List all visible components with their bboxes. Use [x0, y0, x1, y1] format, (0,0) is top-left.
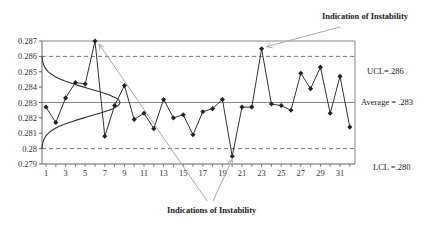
- ucl-label: UCL=.286: [367, 66, 404, 76]
- y-tick-label: 0.28: [22, 144, 37, 154]
- y-tick-label: 0.281: [18, 128, 37, 138]
- x-tick-label: 15: [179, 168, 188, 178]
- x-tick-label: 5: [83, 168, 87, 178]
- x-tick-label: 1: [44, 168, 48, 178]
- data-point-marker: [249, 105, 254, 110]
- data-point-marker: [259, 46, 264, 51]
- top-annotation: Indication of Instability: [322, 11, 409, 21]
- data-point-marker: [43, 105, 48, 110]
- x-tick-label: 27: [297, 168, 306, 178]
- data-point-marker: [53, 120, 58, 125]
- data-point-marker: [63, 95, 68, 100]
- y-tick-label: 0.282: [18, 113, 37, 123]
- reference-lines: [42, 56, 355, 148]
- data-point-marker: [328, 111, 333, 116]
- x-tick-label: 9: [122, 168, 126, 178]
- x-tick-label: 17: [199, 168, 208, 178]
- data-point-marker: [102, 134, 107, 139]
- x-tick-label: 21: [238, 168, 247, 178]
- y-tick-label: 0.285: [18, 67, 37, 77]
- data-point-marker: [181, 112, 186, 117]
- y-tick-label: 0.283: [18, 98, 37, 108]
- data-point-marker: [337, 74, 342, 79]
- y-tick-label: 0.279: [18, 159, 37, 169]
- x-tick-label: 13: [159, 168, 168, 178]
- control-chart: 0.2790.280.2810.2820.2830.2840.2850.2860…: [0, 0, 427, 226]
- lcl-label: LCL =.280: [373, 162, 411, 172]
- data-point-marker: [230, 154, 235, 159]
- data-point-marker: [279, 103, 284, 108]
- y-tick-label: 0.284: [18, 82, 38, 92]
- x-axis: 135791113151719212325272931: [42, 164, 355, 178]
- data-point-marker: [161, 97, 166, 102]
- x-tick-label: 7: [103, 168, 107, 178]
- average-label: Average = .283: [361, 97, 413, 107]
- data-point-marker: [190, 132, 195, 137]
- data-point-marker: [308, 86, 313, 91]
- x-tick-label: 3: [63, 168, 67, 178]
- data-point-marker: [318, 65, 323, 70]
- data-point-marker: [132, 117, 137, 122]
- data-point-marker: [288, 108, 293, 113]
- data-point-marker: [347, 125, 352, 130]
- y-tick-label: 0.286: [18, 51, 37, 61]
- data-point-marker: [200, 109, 205, 114]
- x-tick-label: 23: [257, 168, 266, 178]
- data-point-marker: [298, 71, 303, 76]
- data-point-marker: [239, 105, 244, 110]
- y-tick-label: 0.287: [18, 36, 37, 46]
- data-point-marker: [83, 82, 88, 87]
- x-tick-label: 29: [316, 168, 325, 178]
- x-tick-label: 11: [140, 168, 148, 178]
- x-tick-label: 25: [277, 168, 286, 178]
- x-tick-label: 31: [336, 168, 345, 178]
- data-series-line: [46, 41, 350, 156]
- data-point-marker: [92, 38, 97, 43]
- data-point-marker: [171, 115, 176, 120]
- bottom-annotation: Indications of Instability: [167, 205, 257, 215]
